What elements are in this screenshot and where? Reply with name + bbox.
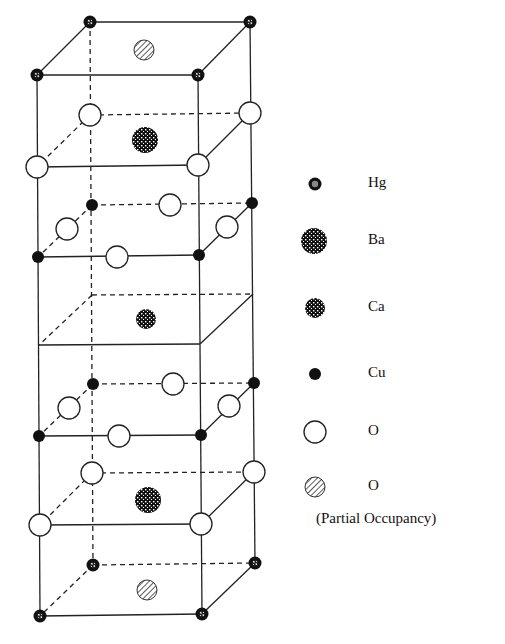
legend-label-ba: Ba [368,231,385,248]
atom-hg [31,69,44,82]
legend-item-cu: Cu [300,359,505,389]
atom-hg [34,610,47,623]
legend-label-o-partial: O [368,477,379,494]
atom-hg [87,559,100,572]
atom-ca [136,309,156,329]
legend-item-ba: Ba [300,226,505,256]
legend-item-o: O [300,417,505,447]
legend-item-ca: Ca [300,293,505,323]
legend-item-o-partial: O [300,472,505,502]
legend-note-partial-occupancy: (Partial Occupancy) [316,510,436,527]
atom-ba [132,127,158,153]
atom-o-partial [137,580,157,600]
legend-item-hg: Hg [300,169,505,199]
atom-o-partial [134,40,154,60]
atom-ba [135,487,161,513]
atom-hg [244,16,257,29]
ca-icon [300,293,330,323]
ba-icon [300,226,330,256]
hg-icon [300,169,330,199]
legend-label-cu: Cu [368,364,386,381]
legend-label-hg: Hg [368,174,386,191]
atom-hg [196,608,209,621]
o-icon [300,417,330,447]
legend-label-ca: Ca [368,298,385,315]
legend: Hg Ba Ca Cu O [300,0,505,644]
cu-icon [300,359,330,389]
atom-hg [84,16,97,29]
atom-hg [192,69,205,82]
o-partial-icon [300,472,330,502]
atom-hg [249,557,262,570]
legend-label-o: O [368,422,379,439]
